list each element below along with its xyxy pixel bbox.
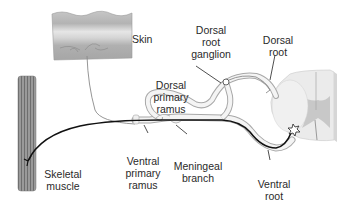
label-line: ramus [148,103,194,115]
label-line: primary [148,91,194,103]
dorsal-root-ganglion [223,79,229,85]
label-line: Dorsal [186,24,236,36]
cutaneous-nerve [87,56,135,124]
label-skin: Skin [132,33,152,45]
label-line: Dorsal [148,79,194,91]
label-line: Ventral [254,178,294,190]
spinal-cord [271,70,337,142]
label-skeletal-muscle: Skeletal muscle [40,168,86,192]
skeletal-muscle [18,76,36,191]
label-line: Skeletal [40,168,86,180]
label-skin-text: Skin [132,33,152,45]
label-dorsal-root-ganglion: Dorsal root ganglion [186,24,236,60]
label-line: root [254,190,294,202]
label-line: root [258,46,298,58]
label-dorsal-root: Dorsal root [258,34,298,58]
label-line: Meningeal [170,160,226,172]
label-line: root [186,36,236,48]
label-meningeal-branch: Meningeal branch [170,160,226,184]
label-line: branch [170,172,226,184]
label-line: primary [122,167,164,179]
label-ventral-root: Ventral root [254,178,294,202]
label-line: Dorsal [258,34,298,46]
label-ventral-primary-ramus: Ventral primary ramus [122,155,164,191]
label-dorsal-primary-ramus: Dorsal primary ramus [148,79,194,115]
label-line: ramus [122,179,164,191]
label-line: ganglion [186,48,236,60]
skin-block [52,11,132,60]
label-line: Ventral [122,155,164,167]
label-line: muscle [40,180,86,192]
